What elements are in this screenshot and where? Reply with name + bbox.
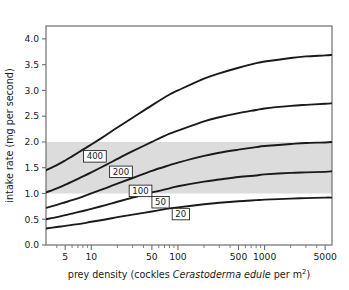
shaded-band-layer	[46, 142, 332, 194]
y-tick-label: 3.5	[24, 59, 39, 70]
curve-label-200: 200	[110, 166, 133, 178]
chart-canvas: 0.00.51.01.52.02.53.03.54.0 510501005001…	[0, 0, 349, 290]
x-tick-label: 5000	[313, 251, 337, 262]
y-tick-label: 2.0	[24, 136, 39, 147]
curves-layer	[46, 55, 332, 229]
chart-figure: 0.00.51.01.52.02.53.03.54.0 510501005001…	[0, 0, 349, 290]
x-tick-label: 10	[85, 251, 97, 262]
curve-label-text: 50	[155, 197, 166, 207]
curve-label-100: 100	[129, 185, 152, 197]
y-tick-label: 1.5	[24, 162, 39, 173]
y-tick-label: 0.0	[24, 239, 39, 250]
curve-label-text: 20	[175, 209, 186, 219]
curve-label-20: 20	[172, 208, 189, 220]
y-tick-labels: 0.00.51.01.52.02.53.03.54.0	[24, 33, 39, 250]
y-tick-label: 2.5	[24, 110, 39, 121]
x-tick-label: 5	[62, 251, 68, 262]
y-tick-label: 3.0	[24, 85, 39, 96]
x-tick-label: 500	[230, 251, 248, 262]
y-tick-label: 0.5	[24, 214, 39, 225]
x-tick-label: 1000	[253, 251, 277, 262]
curve-label-text: 400	[87, 151, 103, 161]
y-axis-title: intake rate (mg per second)	[4, 68, 15, 202]
x-tick-labels: 5105010050010005000	[62, 251, 337, 262]
x-axis-title: prey density (cockles Cerastoderma edule…	[68, 268, 310, 280]
y-tick-label: 4.0	[24, 33, 39, 44]
x-tick-label: 100	[169, 251, 187, 262]
curve-label-text: 200	[113, 167, 129, 177]
curve-label-400: 400	[84, 151, 107, 163]
curve-label-text: 100	[132, 186, 148, 196]
curve-label-50: 50	[152, 196, 169, 208]
shaded-band	[46, 142, 332, 194]
x-tick-label: 50	[146, 251, 158, 262]
y-tick-label: 1.0	[24, 188, 39, 199]
